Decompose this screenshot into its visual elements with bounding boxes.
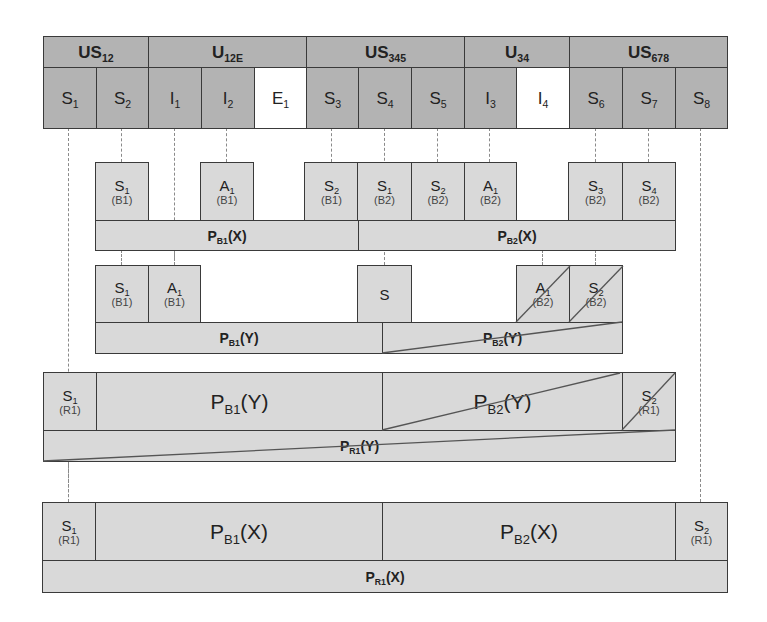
rowry-pb2: PB2(Y) xyxy=(382,372,623,431)
cell-s2: S2 xyxy=(96,67,149,129)
connector-s3 xyxy=(331,128,332,162)
cell-i3: I3 xyxy=(464,67,517,129)
rowrx-pb1: PB1(X) xyxy=(95,502,383,561)
cell-s7: S7 xyxy=(622,67,676,129)
cell-s4: S4 xyxy=(358,67,412,129)
connector-s8 xyxy=(700,128,701,502)
header-us12: US12 xyxy=(43,36,149,69)
connector-s2 xyxy=(121,128,122,162)
rowy-a1-b2: A1(B2) xyxy=(516,265,570,323)
rowx-s4-b2: S4(B2) xyxy=(622,162,676,221)
rowry-s1-r1: S1(R1) xyxy=(43,372,97,431)
rowry-s2-r1: S2(R1) xyxy=(622,372,676,431)
rowy-bar-pb1: PB1(Y) xyxy=(95,322,383,354)
rowx-s3-b2: S3(B2) xyxy=(568,162,623,221)
connector-s6 xyxy=(595,128,596,162)
rowx-s1-b1: S1(B1) xyxy=(95,162,149,221)
connector-i2 xyxy=(226,128,227,162)
rowy-bar-pb2: PB2(Y) xyxy=(382,322,623,354)
cell-s5: S5 xyxy=(411,67,465,129)
rowy-s2-b2: S2(B2) xyxy=(569,265,623,323)
header-u12e: U12E xyxy=(148,36,307,69)
rowry-pb1: PB1(Y) xyxy=(96,372,383,431)
cell-i2: I2 xyxy=(201,67,255,129)
connector-row4-s1 xyxy=(68,461,69,502)
connector-row2-a1 xyxy=(174,250,175,265)
rowx-s2-b2: S2(B2) xyxy=(411,162,465,221)
cell-i4: I4 xyxy=(516,67,570,129)
connector-s5 xyxy=(437,128,438,162)
rowx-s1-b2: S1(B2) xyxy=(357,162,412,221)
rowx-bar-pb1: PB1(X) xyxy=(95,220,359,251)
connector-row2-s1 xyxy=(121,250,122,265)
header-us345: US345 xyxy=(306,36,465,69)
connector-s7 xyxy=(648,128,649,162)
connector-row2-s2b2 xyxy=(595,250,596,265)
rowy-s: S xyxy=(357,265,412,323)
rowy-a1-b1: A1(B1) xyxy=(148,265,201,323)
cell-i1: I1 xyxy=(148,67,202,129)
rowrx-s1-r1: S1(R1) xyxy=(42,502,96,561)
cell-s3: S3 xyxy=(306,67,359,129)
rowrx-bar-pr1: PR1(X) xyxy=(42,560,728,593)
rowx-a1-b2: A1(B2) xyxy=(464,162,517,221)
rowx-a1-b1: A1(B1) xyxy=(200,162,254,221)
rowry-bar-pr1: PR1(Y) xyxy=(43,430,676,462)
cell-s1: S1 xyxy=(43,67,97,129)
rowrx-pb2: PB2(X) xyxy=(382,502,676,561)
rowx-bar-pb2: PB2(X) xyxy=(358,220,676,251)
connector-i3 xyxy=(489,128,490,162)
rowy-s1-b1: S1(B1) xyxy=(95,265,149,323)
header-us678: US678 xyxy=(569,36,728,69)
cell-e1: E1 xyxy=(254,67,307,129)
cell-s6: S6 xyxy=(569,67,623,129)
cell-s8: S8 xyxy=(675,67,728,129)
connector-row2-a1b2 xyxy=(542,250,543,265)
rowrx-s2-r1: S2(R1) xyxy=(675,502,728,561)
header-u34: U34 xyxy=(464,36,570,69)
rowx-s2-b1: S2(B1) xyxy=(304,162,359,221)
